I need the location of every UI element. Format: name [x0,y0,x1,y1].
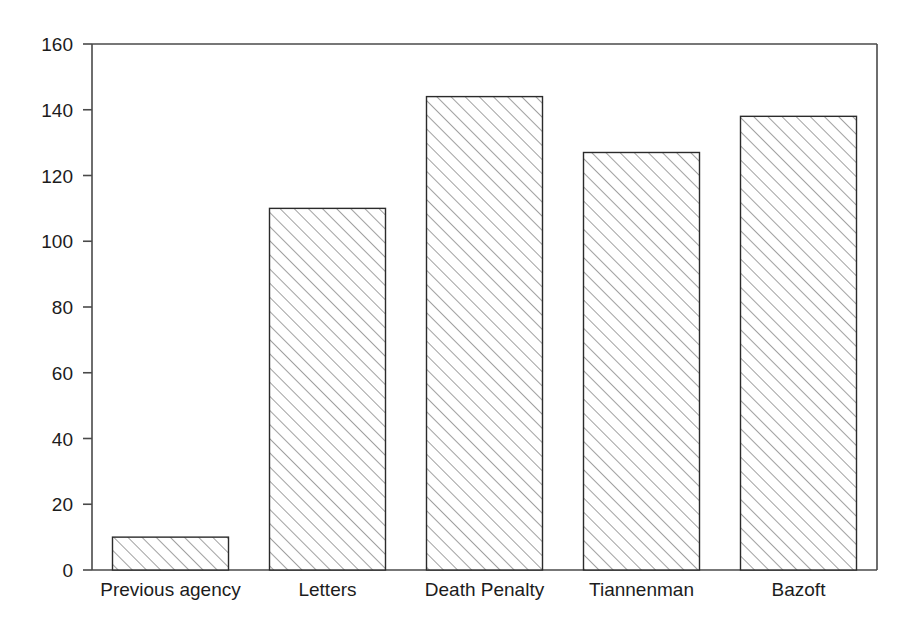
y-tick-label: 160 [41,34,73,55]
y-tick-label: 0 [62,560,73,581]
bar-chart: 020406080100120140160 Previous agencyLet… [0,0,908,630]
bar [584,152,700,570]
chart-canvas: 020406080100120140160 Previous agencyLet… [0,0,908,630]
bar [113,537,229,570]
bar [427,97,543,570]
y-tick-label: 120 [41,166,73,187]
x-category-label: Tiannenman [589,579,694,600]
x-category-label: Previous agency [100,579,241,600]
bar [741,116,857,570]
x-category-label: Letters [298,579,356,600]
y-tick-label: 60 [52,363,73,384]
y-tick-label: 100 [41,231,73,252]
y-tick-label: 80 [52,297,73,318]
bar [270,208,386,570]
y-tick-label: 40 [52,429,73,450]
y-tick-label: 20 [52,494,73,515]
x-category-label: Death Penalty [425,579,545,600]
y-tick-label: 140 [41,100,73,121]
x-category-label: Bazoft [772,579,827,600]
